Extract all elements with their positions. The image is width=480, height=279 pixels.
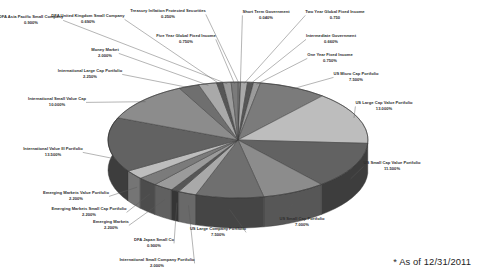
pie-label-name: Money Market: [91, 47, 119, 53]
leader-line: [122, 74, 190, 88]
pie-label-name: International Large Cap Portfolio: [58, 68, 122, 74]
pie-label-9: US Large Company Portfolio7.500%: [190, 226, 246, 238]
pie-label-4: One Year Fixed Income0.750%: [307, 52, 352, 64]
pie-label-name: US Small Cap Value Portfolio: [364, 160, 421, 166]
leader-line: [244, 15, 305, 83]
pie-label-percent: 2.000%: [91, 53, 119, 59]
pie-label-percent: 7.500%: [190, 232, 246, 238]
pie-slice-side: [155, 185, 172, 220]
pie-slice-side: [196, 195, 264, 228]
pie-label-20: DFA Asia Pacific Small Company0.900%: [0, 14, 63, 26]
leader-line: [216, 39, 235, 83]
pie-label-percent: 0.750%: [156, 39, 216, 45]
pie-label-name: Emerging Markets: [93, 219, 129, 225]
pie-label-name: DFA Asia Pacific Small Company: [0, 14, 63, 20]
pie-label-1: Short Term Government0.040%: [242, 9, 289, 21]
pie-label-name: Intermediate Government: [306, 33, 356, 39]
pie-label-percent: 0.900%: [134, 243, 174, 249]
leader-line: [240, 15, 242, 83]
pie-label-0: Treasury Inflation Protected Securities0…: [130, 8, 206, 20]
leader-line: [292, 77, 334, 89]
pie-label-percent: 2.200%: [51, 212, 126, 218]
pie-label-percent: 0.900%: [0, 20, 63, 26]
pie-label-name: US Micro Cap Portfolio: [333, 71, 378, 77]
pie-label-name: Emerging Markets Small Cap Portfolio: [51, 206, 126, 212]
pie-label-percent: 13.000%: [355, 106, 412, 112]
as-of-footnote: * As of 12/31/2011: [393, 256, 471, 267]
pie-label-name: Treasury Inflation Protected Securities: [130, 8, 206, 14]
pie-label-percent: 0.250%: [130, 14, 206, 20]
leader-line: [206, 14, 239, 83]
pie-label-15: International Value III Portfolio13.500%: [23, 146, 83, 158]
leader-line: [83, 152, 113, 158]
pie-label-21: Five Year Global Fixed Income0.750%: [156, 33, 216, 45]
pie-label-percent: 0.750%: [307, 58, 352, 64]
pie-label-name: International Small Value Cap: [28, 96, 86, 102]
pie-label-name: US Small Cap Portfolio: [279, 216, 324, 222]
pie-label-percent: 2.200%: [93, 225, 129, 231]
pie-label-percent: 0.040%: [242, 15, 289, 21]
pie-label-name: One Year Fixed Income: [307, 52, 352, 58]
pie-label-13: Emerging Markets Small Cap Portfolio2.20…: [51, 206, 126, 218]
pie-label-percent: 7.000%: [279, 222, 324, 228]
leader-line: [119, 53, 209, 85]
pie-label-percent: 11.500%: [364, 166, 421, 172]
pie-label-16: International Small Value Cap10.000%: [28, 96, 86, 108]
pie-label-name: US Large Company Portfolio: [190, 226, 246, 232]
pie-label-5: US Micro Cap Portfolio7.500%: [333, 71, 378, 83]
pie-label-14: Emerging Markets Value Portfolio2.200%: [43, 190, 109, 202]
pie-label-7: US Small Cap Value Portfolio11.500%: [364, 160, 421, 172]
pie-label-name: Emerging Markets Value Portfolio: [43, 190, 109, 196]
pie-label-6: US Large Cap Value Portfolio13.000%: [355, 100, 412, 112]
pie-label-percent: 10.000%: [28, 102, 86, 108]
pie-label-percent: 0.660%: [306, 39, 356, 45]
pie-slice-side: [171, 190, 178, 222]
pie-label-percent: 2.200%: [43, 196, 109, 202]
pie-label-percent: 2.000%: [119, 263, 194, 269]
pie-label-12: Emerging Markets2.200%: [93, 219, 129, 231]
pie-label-2: Two Year Global Fixed Income0.750: [305, 9, 364, 21]
pie-label-name: DFA Japan Small Co: [134, 237, 174, 243]
leader-line: [250, 39, 306, 84]
pie-chart-figure: Treasury Inflation Protected Securities0…: [0, 0, 480, 279]
leader-line: [86, 102, 146, 103]
leader-line: [257, 58, 308, 84]
pie-label-percent: 13.500%: [23, 152, 83, 158]
pie-label-name: International Value III Portfolio: [23, 146, 83, 152]
pie-label-18: Money Market2.000%: [91, 47, 119, 59]
pie-label-name: Two Year Global Fixed Income: [305, 9, 364, 15]
leader-line: [125, 19, 221, 84]
pie-label-percent: 0.750: [305, 15, 364, 21]
pie-label-name: Short Term Government: [242, 9, 289, 15]
pie-label-name: US Large Cap Value Portfolio: [355, 100, 412, 106]
pie-label-8: US Small Cap Portfolio7.000%: [279, 216, 324, 228]
pie-top-face: [108, 82, 368, 198]
pie-label-name: Five Year Global Fixed Income: [156, 33, 216, 39]
pie-label-17: International Large Cap Portfolio2.250%: [58, 68, 122, 80]
pie-label-3: Intermediate Government0.660%: [306, 33, 356, 45]
pie-slice-side: [179, 192, 196, 225]
pie-label-percent: 2.250%: [58, 74, 122, 80]
pie-label-10: International Small Company Portfolio2.0…: [119, 257, 194, 269]
pie-label-name: International Small Company Portfolio: [119, 257, 194, 263]
pie-label-11: DFA Japan Small Co0.900%: [134, 237, 174, 249]
pie-label-percent: 7.500%: [333, 77, 378, 83]
